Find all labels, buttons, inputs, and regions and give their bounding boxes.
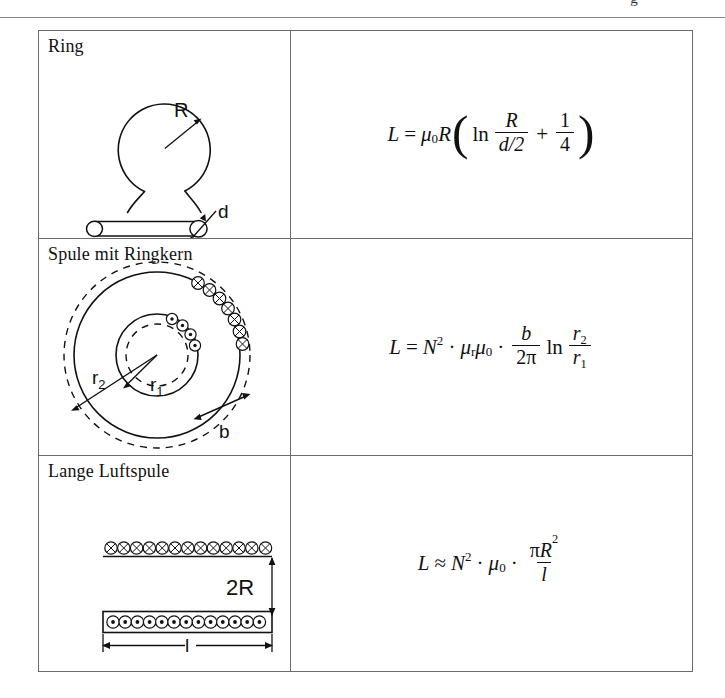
toroid-inner-turns <box>166 313 200 351</box>
formula-ring-R: R <box>438 124 451 145</box>
diagram-cell-air-coil: Lange Luftspule <box>39 456 291 671</box>
page-header-glyph: g <box>627 0 641 14</box>
formula-air-coil-frac-den: l <box>541 563 547 585</box>
formula-air-coil-pi: π <box>530 539 540 561</box>
svg-text:l: l <box>185 635 189 656</box>
page-header-glyph-text: g <box>627 0 641 5</box>
diagram-cell-ring: Ring R d <box>39 31 291 238</box>
formula-air-coil: L ≈ N2 · μ0 · πR2 l <box>418 541 565 587</box>
formula-air-coil-fraction: πR2 l <box>526 539 562 585</box>
formula-ring-frac1-num: R <box>505 109 517 131</box>
formula-air-coil-mu: μ <box>489 553 500 574</box>
formula-toroid-mu-r: μ <box>460 337 471 358</box>
table-row-air-coil: Lange Luftspule <box>39 456 692 671</box>
formula-air-coil-relation: ≈ <box>435 553 447 574</box>
formula-cell-air-coil: L ≈ N2 · μ0 · πR2 l <box>291 456 692 671</box>
formula-toroid-N-exponent: 2 <box>437 334 444 347</box>
formula-cell-ring: L = μ0R ( ln R d/2 + 1 4 ) <box>291 31 692 238</box>
formula-air-coil-N: N <box>451 553 465 574</box>
ring-loop-diagram: R d <box>39 31 291 238</box>
formula-air-coil-R: R <box>540 539 552 561</box>
formula-toroid: L = N2 · μrμ0 · b 2π ln r2 r1 <box>389 325 593 369</box>
formula-toroid-fraction-1: b 2π <box>512 324 540 368</box>
formula-toroid-dot-1: · <box>448 337 455 358</box>
formula-ring-paren-close: ) <box>578 118 594 149</box>
formula-toroid-frac1-den: 2π <box>516 346 536 368</box>
toroid-core-coil-diagram: r2 r1 b <box>39 239 291 455</box>
page-header-rule <box>0 17 725 18</box>
formula-toroid-mu-r-sub: r <box>471 345 475 358</box>
formula-toroid-mu-0-sub: 0 <box>486 345 493 358</box>
formula-air-coil-R-exponent: 2 <box>552 532 558 546</box>
formula-toroid-N: N <box>423 337 437 358</box>
formula-air-coil-dot-1: · <box>477 553 484 574</box>
formula-ring-mu-sub: 0 <box>432 132 439 145</box>
inductance-formula-table: Ring R d <box>38 30 693 672</box>
formula-toroid-frac2-num-sub: 2 <box>580 333 586 347</box>
diagram-cell-toroid: Spule mit Ringkern <box>39 239 291 455</box>
formula-toroid-mu-0: μ <box>475 337 486 358</box>
formula-air-coil-dot-2: · <box>511 553 518 574</box>
formula-air-coil-lhs: L <box>418 553 430 574</box>
formula-ring-mu: μ <box>421 124 432 145</box>
svg-text:d: d <box>218 201 229 222</box>
svg-text:b: b <box>219 421 230 442</box>
table-row-ring: Ring R d <box>39 31 692 239</box>
long-air-coil-diagram: 2R <box>39 456 291 670</box>
formula-ring-fraction-1: R d/2 <box>495 111 528 155</box>
formula-ring-frac1-den: d/2 <box>499 133 524 155</box>
formula-toroid-lhs: L <box>389 337 401 358</box>
formula-air-coil-mu-sub: 0 <box>499 561 506 574</box>
formula-toroid-ln: ln <box>546 337 562 358</box>
formula-ring-frac2-num: 1 <box>560 109 570 131</box>
formula-cell-toroid: L = N2 · μrμ0 · b 2π ln r2 r1 <box>291 239 692 455</box>
formula-ring-ln: ln <box>472 124 488 145</box>
formula-toroid-frac2-den-sub: 1 <box>580 357 586 371</box>
formula-ring: L = μ0R ( ln R d/2 + 1 4 ) <box>388 113 596 157</box>
svg-text:2R: 2R <box>226 575 254 600</box>
formula-toroid-frac1-num: b <box>521 322 531 344</box>
formula-ring-frac2-den: 4 <box>560 133 570 155</box>
air-coil-turns-top <box>103 542 272 557</box>
air-coil-dimension-l: l <box>102 634 273 656</box>
formula-ring-plus: + <box>536 124 548 145</box>
formula-toroid-fraction-2: r2 r1 <box>569 324 591 368</box>
formula-ring-lhs: L <box>388 124 400 145</box>
table-row-toroid: Spule mit Ringkern <box>39 239 692 456</box>
formula-ring-paren-open: ( <box>452 118 468 149</box>
svg-text:R: R <box>174 99 188 121</box>
formula-air-coil-N-exponent: 2 <box>465 550 472 563</box>
svg-text:r2: r2 <box>92 367 106 392</box>
formula-toroid-dot-2: · <box>497 337 504 358</box>
formula-ring-relation: = <box>404 124 416 145</box>
formula-ring-fraction-2: 1 4 <box>556 111 574 155</box>
air-coil-turns-bottom <box>103 612 272 633</box>
formula-toroid-relation: = <box>406 337 418 358</box>
air-coil-dimension-2R: 2R <box>226 557 275 616</box>
